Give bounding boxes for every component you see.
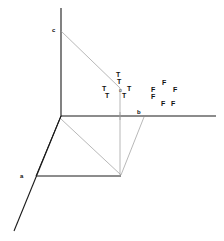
c-to-origin-line — [61, 31, 120, 88]
f-label-4: F — [151, 93, 155, 100]
f-label-5: F — [161, 100, 165, 107]
axis-label-c: c — [52, 27, 55, 33]
figure-vector-canvas — [0, 0, 224, 241]
t-label-3: T — [102, 85, 106, 92]
coordinate-figure: c b a o TTTTTT FFFFFF — [0, 0, 224, 241]
t-label-2: T — [117, 78, 121, 85]
t-label-4: T — [127, 85, 131, 92]
t-label-1: T — [116, 71, 120, 78]
floor-diagonal — [61, 119, 121, 175]
f-label-1: F — [162, 79, 166, 86]
axis-label-a: a — [20, 173, 23, 179]
solid-line-group — [14, 8, 216, 231]
axis-label-b: b — [137, 109, 141, 115]
f-label-6: F — [171, 100, 175, 107]
f-label-3: F — [173, 86, 177, 93]
faint-line-group — [61, 31, 144, 176]
floor-left-edge — [36, 116, 61, 176]
t-label-5: T — [105, 92, 109, 99]
b-to-corner-line — [121, 117, 144, 175]
f-label-2: F — [151, 86, 155, 93]
t-label-6: T — [122, 92, 126, 99]
